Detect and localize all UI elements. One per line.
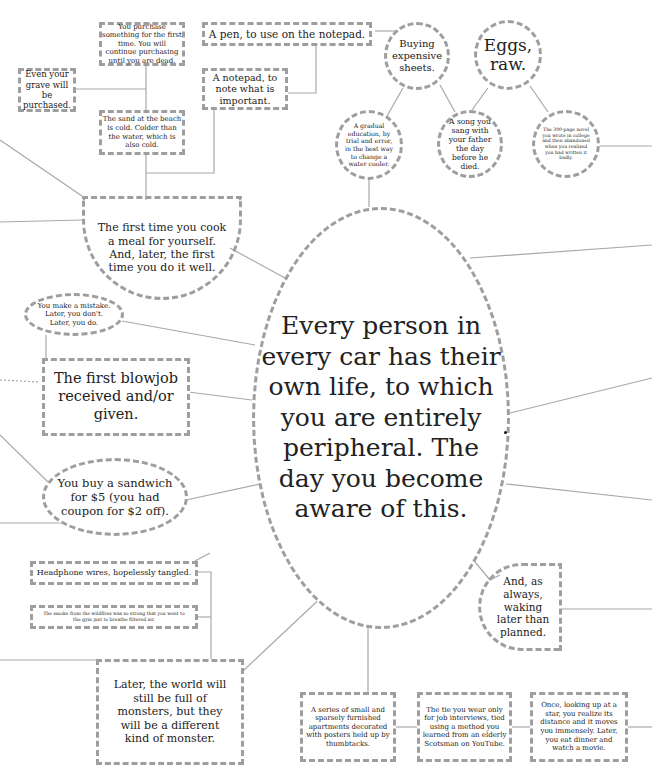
- node-sandwich: You buy a sandwich for $5 (you had coupo…: [42, 458, 188, 536]
- node-text: A notepad, to note what is important.: [205, 72, 285, 107]
- node-notepad: A notepad, to note what is important.: [202, 68, 288, 110]
- node-pen: A pen, to use on the notepad.: [202, 22, 372, 46]
- node-text: The first blowjob received and/or given.: [45, 370, 187, 423]
- node-text: Buying expensive sheets.: [387, 38, 447, 75]
- node-text: The first time you cook a meal for yours…: [97, 221, 227, 275]
- node-apartments: A series of small and sparsely furnished…: [300, 692, 396, 762]
- node-text: Headphone wires, hopelessly tangled.: [37, 568, 191, 578]
- node-text: A series of small and sparsely furnished…: [306, 706, 390, 749]
- node-text: Eggs, raw.: [477, 36, 539, 73]
- node-text: You buy a sandwich for $5 (you had coupo…: [53, 476, 177, 518]
- node-text: A song you sang with your father the day…: [443, 117, 497, 172]
- node-mistake: You make a mistake. Later, you don't. La…: [24, 293, 124, 336]
- node-blowjob: The first blowjob received and/or given.: [42, 358, 190, 436]
- node-purchase-first-time: You purchase something for the first tim…: [99, 22, 185, 66]
- node-text: A pen, to use on the notepad.: [209, 28, 365, 41]
- anchor-dot: [504, 431, 507, 434]
- node-headphones: Headphone wires, hopelessly tangled.: [30, 561, 198, 585]
- center-text: Every person in every car has their own …: [259, 311, 503, 525]
- node-water-cooler: A gradual education, by trial and error,…: [335, 110, 403, 180]
- node-monsters: Later, the world will still be full of m…: [96, 659, 244, 765]
- node-song: A song you sang with your father the day…: [437, 110, 503, 178]
- node-text: The sand at the beach is cold. Colder th…: [102, 115, 182, 149]
- node-text: You purchase something for the first tim…: [102, 23, 182, 66]
- node-text: And, as always, waking later than planne…: [493, 575, 553, 639]
- node-text: The 300-page novel you wrote in college …: [540, 127, 592, 161]
- node-text: Even your grave will be purchased.: [21, 69, 73, 110]
- node-text: A gradual education, by trial and error,…: [342, 122, 396, 167]
- node-text: Later, the world will still be full of m…: [107, 678, 233, 745]
- node-star: Once, looking up at a star, you realize …: [530, 692, 628, 762]
- node-text: The tie you wear only for job interviews…: [422, 706, 507, 749]
- node-tie: The tie you wear only for job interviews…: [417, 692, 512, 762]
- node-sand-beach: The sand at the beach is cold. Colder th…: [99, 110, 185, 155]
- center-ellipse: Every person in every car has their own …: [252, 207, 510, 629]
- node-waking: And, as always, waking later than planne…: [478, 563, 562, 651]
- node-text: Once, looking up at a star, you realize …: [535, 701, 623, 752]
- node-wildfire: The smoke from the wildfires was so stro…: [30, 605, 198, 629]
- node-text: The smoke from the wildfires was so stro…: [39, 611, 189, 622]
- node-text: You make a mistake. Later, you don't. La…: [35, 302, 113, 328]
- node-grave: Even your grave will be purchased.: [18, 68, 76, 112]
- node-novel: The 300-page novel you wrote in college …: [532, 110, 600, 178]
- node-sheets: Buying expensive sheets.: [384, 22, 450, 90]
- node-eggs: Eggs, raw.: [474, 20, 542, 90]
